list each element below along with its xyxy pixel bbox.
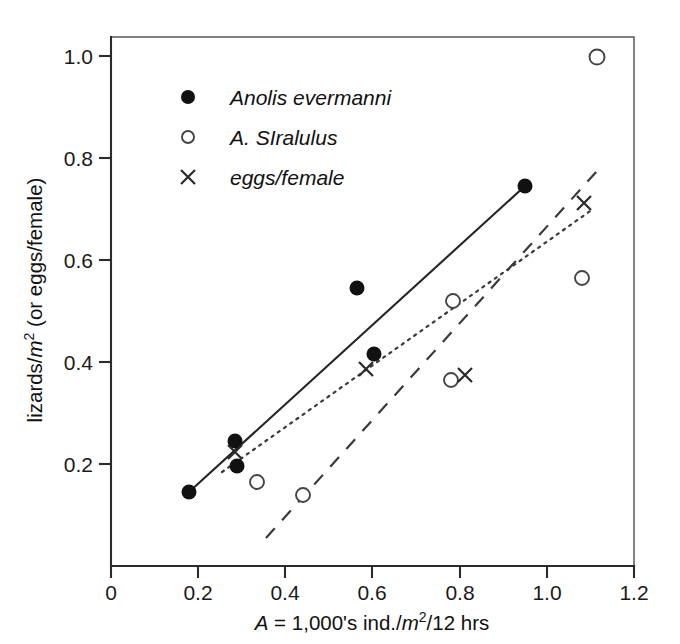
y-axis-tick-labels: 1.0 0.8 0.6 0.4 0.2 (64, 45, 94, 476)
data-point (230, 459, 245, 474)
data-point (367, 347, 382, 362)
scatter-plot: 1.0 0.8 0.6 0.4 0.2 0 0.2 0.4 0.6 0.8 1.… (0, 0, 680, 644)
data-point (182, 485, 197, 500)
data-point (577, 196, 591, 210)
data-point (350, 281, 365, 296)
legend-marker-open-circle-icon (182, 131, 194, 143)
fit-line-a-siralulus (266, 171, 597, 538)
y-tick-label-0.4: 0.4 (64, 351, 94, 374)
data-point (250, 475, 264, 489)
x-tick-label-1.2: 1.2 (619, 581, 648, 604)
y-axis-title: lizards/m2 (or eggs/female) (21, 178, 46, 423)
x-tick-label-0.8: 0.8 (445, 581, 474, 604)
y-tick-label-0.6: 0.6 (64, 249, 93, 272)
x-axis-title-sup: 2 (419, 609, 427, 625)
data-point (518, 179, 533, 194)
figure-container: 1.0 0.8 0.6 0.4 0.2 0 0.2 0.4 0.6 0.8 1.… (0, 0, 680, 644)
x-axis-tick-labels: 0 0.2 0.4 0.6 0.8 1.0 1.2 (105, 581, 648, 604)
data-point (359, 362, 373, 376)
data-point (590, 50, 605, 65)
legend: Anolis evermanni A. SIralulus eggs/femal… (181, 86, 392, 189)
legend-marker-filled-circle-icon (181, 90, 195, 104)
data-point (296, 488, 310, 502)
y-axis-title-m: m (23, 340, 46, 357)
x-axis-title-mid: = 1,000's ind./ (268, 611, 402, 634)
x-axis-title-tail: /12 hrs (427, 611, 490, 634)
x-tick-label-1.0: 1.0 (532, 581, 561, 604)
y-axis-title-head: lizards/ (23, 357, 46, 422)
y-axis-ticks (99, 56, 111, 464)
x-axis-title-A: A (253, 611, 269, 634)
x-axis-title-m: m (402, 611, 419, 634)
data-point (575, 271, 589, 285)
series-points-eggs-female (228, 196, 591, 459)
y-tick-label-0.8: 0.8 (64, 147, 93, 170)
x-tick-label-0.4: 0.4 (270, 581, 300, 604)
data-point (446, 294, 460, 308)
data-point (458, 368, 472, 382)
x-tick-label-0.6: 0.6 (357, 581, 386, 604)
y-tick-label-0.2: 0.2 (64, 453, 93, 476)
legend-label-a-siralulus: A. SIralulus (228, 126, 338, 149)
legend-marker-cross-icon (181, 170, 195, 184)
data-point (444, 373, 458, 387)
y-axis-title-sup: 2 (21, 332, 37, 340)
legend-label-anolis-evermanni: Anolis evermanni (228, 86, 392, 109)
x-axis-title: A = 1,000's ind./m2/12 hrs (253, 609, 490, 634)
x-tick-label-0: 0 (105, 581, 117, 604)
x-tick-label-0.2: 0.2 (183, 581, 212, 604)
legend-label-eggs-female: eggs/female (230, 166, 344, 189)
y-tick-label-1.0: 1.0 (64, 45, 93, 68)
fit-line-eggs-female (222, 209, 593, 472)
x-axis-ticks (111, 566, 634, 578)
y-axis-title-tail: (or eggs/female) (23, 178, 46, 333)
